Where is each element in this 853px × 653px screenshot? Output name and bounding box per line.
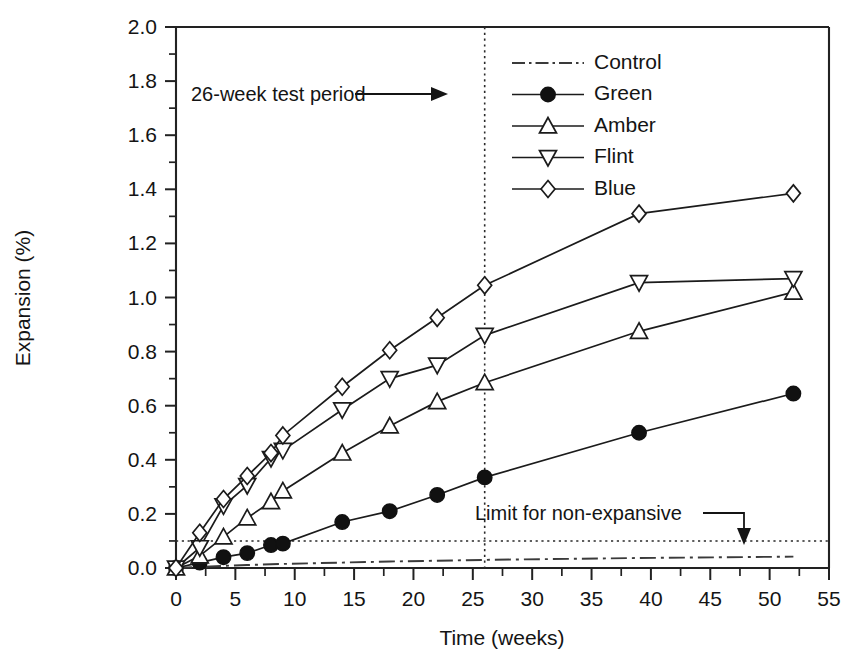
- legend-entry-amber[interactable]: Amber: [512, 113, 656, 136]
- data-point: [632, 426, 646, 440]
- x-tick-label: 35: [580, 587, 603, 610]
- y-axis-ticks: 0.00.20.40.60.81.01.21.41.61.82.0: [128, 15, 176, 579]
- data-point: [429, 358, 446, 373]
- legend-entry-flint[interactable]: Flint: [512, 144, 634, 167]
- legend-entry-green[interactable]: Green: [512, 81, 652, 104]
- annotation-non-expansive: Limit for non-expansive: [475, 502, 751, 545]
- legend-label-blue: Blue: [594, 176, 636, 199]
- y-tick-label: 1.6: [128, 123, 157, 146]
- annotation-test-period-arrowhead: [431, 87, 448, 101]
- chart-legend: ControlGreenAmberFlintBlue: [512, 50, 662, 199]
- data-point: [383, 504, 397, 518]
- data-point: [476, 328, 493, 343]
- y-tick-label: 0.4: [128, 448, 158, 471]
- data-point: [334, 445, 351, 460]
- data-point: [476, 374, 493, 389]
- legend-entry-blue[interactable]: Blue: [512, 176, 636, 199]
- data-point: [215, 528, 232, 543]
- x-tick-label: 50: [758, 587, 781, 610]
- legend-marker-green: [541, 87, 555, 101]
- legend-marker-blue: [541, 181, 555, 198]
- x-axis-ticks: 0510152025303540455055: [170, 568, 841, 610]
- data-point: [478, 277, 492, 294]
- data-point: [216, 550, 230, 564]
- data-point: [631, 276, 648, 291]
- x-tick-label: 5: [230, 587, 242, 610]
- data-point: [276, 536, 290, 550]
- y-tick-label: 2.0: [128, 15, 157, 38]
- data-point: [430, 309, 444, 326]
- x-tick-label: 55: [817, 587, 840, 610]
- chart-figure: 0.00.20.40.60.81.01.21.41.61.82.0 051015…: [0, 0, 853, 653]
- y-tick-label: 1.2: [128, 231, 157, 254]
- y-tick-label: 0.0: [128, 556, 157, 579]
- data-point: [381, 417, 398, 432]
- x-tick-label: 0: [170, 587, 182, 610]
- x-tick-label: 45: [699, 587, 722, 610]
- annotation-test-period: 26-week test period: [191, 83, 448, 105]
- x-tick-label: 10: [283, 587, 306, 610]
- x-tick-label: 30: [521, 587, 544, 610]
- x-tick-label: 15: [342, 587, 365, 610]
- data-point: [430, 488, 444, 502]
- y-tick-label: 0.6: [128, 394, 157, 417]
- x-tick-label: 20: [402, 587, 425, 610]
- data-point: [274, 482, 291, 497]
- data-point: [381, 372, 398, 387]
- data-point: [335, 378, 349, 395]
- data-point: [383, 342, 397, 359]
- y-tick-label: 1.4: [128, 177, 158, 200]
- x-tick-label: 25: [461, 587, 484, 610]
- data-point: [240, 546, 254, 560]
- legend-entry-control[interactable]: Control: [512, 50, 662, 73]
- x-axis-title: Time (weeks): [439, 626, 564, 649]
- y-tick-label: 1.0: [128, 286, 157, 309]
- y-axis-title: Expansion (%): [11, 230, 34, 367]
- y-tick-label: 0.8: [128, 340, 157, 363]
- data-point: [786, 185, 800, 202]
- legend-label-amber: Amber: [594, 113, 656, 136]
- data-point: [239, 509, 256, 524]
- data-point: [477, 470, 491, 484]
- data-point: [335, 515, 349, 529]
- reference-guide-lines: [176, 27, 829, 568]
- data-point: [334, 403, 351, 418]
- data-point: [632, 205, 646, 222]
- annotation-test-period-label: 26-week test period: [191, 83, 366, 105]
- axes: [176, 27, 829, 568]
- legend-label-green: Green: [594, 81, 652, 104]
- legend-label-control: Control: [594, 50, 662, 73]
- x-tick-label: 40: [639, 587, 662, 610]
- annotation-non-expansive-arrowhead: [737, 528, 751, 545]
- data-point: [429, 393, 446, 408]
- y-tick-label: 0.2: [128, 502, 157, 525]
- y-tick-label: 1.8: [128, 69, 157, 92]
- data-point: [786, 386, 800, 400]
- expansion-vs-time-line-chart: 0.00.20.40.60.81.01.21.41.61.82.0 051015…: [0, 0, 853, 653]
- series-green: [169, 386, 801, 575]
- legend-label-flint: Flint: [594, 144, 634, 167]
- annotation-non-expansive-label: Limit for non-expansive: [475, 502, 682, 524]
